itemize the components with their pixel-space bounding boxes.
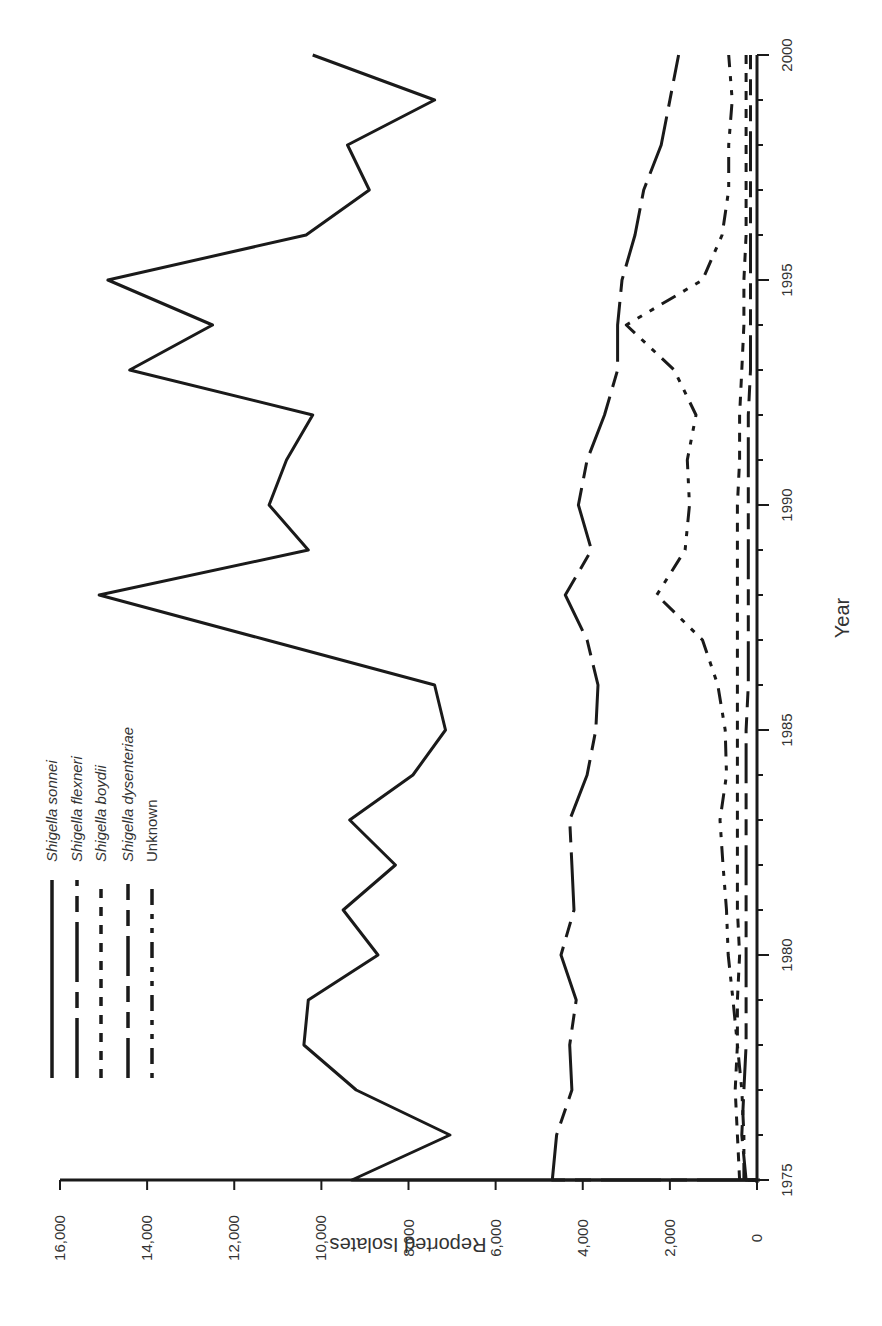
series-shigella-flexneri	[552, 55, 757, 1180]
value-tick-label: 0	[748, 1234, 765, 1242]
legend-label: Unknown	[143, 799, 160, 862]
value-tick-label: 10,000	[312, 1215, 329, 1261]
value-tick-label: 12,000	[225, 1215, 242, 1261]
year-tick-label: 1980	[778, 938, 795, 971]
series-shigella-sonnei	[99, 55, 757, 1180]
year-tick-label: 1985	[778, 713, 795, 746]
legend-label: Shigella boydii	[92, 765, 109, 862]
year-tick-label: 2000	[778, 38, 795, 71]
value-tick-label: 14,000	[138, 1215, 155, 1261]
series-lines	[99, 55, 757, 1180]
x-axis-title: Year	[831, 597, 853, 638]
value-tick-label: 16,000	[51, 1215, 68, 1261]
axes: 02,0004,0006,0008,00010,00012,00014,0001…	[51, 38, 795, 1261]
legend: Shigella sonneiShigella flexneriShigella…	[43, 727, 160, 1078]
legend-label: Shigella flexneri	[68, 755, 85, 862]
series-shigella-dysenteriae	[742, 55, 757, 1180]
value-tick-label: 4,000	[574, 1219, 591, 1257]
y-axis-title: Reported Isolates	[330, 1234, 487, 1256]
value-tick-label: 6,000	[487, 1219, 504, 1257]
value-tick-label: 2,000	[661, 1219, 678, 1257]
year-tick-label: 1990	[778, 488, 795, 521]
legend-label: Shigella dysenteriae	[119, 727, 136, 862]
shigella-isolates-chart: 02,0004,0006,0008,00010,00012,00014,0001…	[0, 0, 882, 1326]
legend-label: Shigella sonnei	[43, 760, 60, 862]
year-tick-label: 1975	[778, 1163, 795, 1196]
year-tick-label: 1995	[778, 263, 795, 296]
